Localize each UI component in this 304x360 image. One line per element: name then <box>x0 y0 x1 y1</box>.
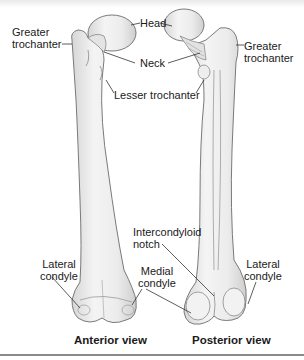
label-line: condyle <box>40 270 78 282</box>
label-intercondyloid-notch: Intercondyloid notch <box>133 226 202 250</box>
label-text: Head <box>140 17 166 29</box>
bottom-divider <box>0 354 304 356</box>
label-line: Greater <box>244 40 294 52</box>
label-line: trochanter <box>12 38 62 50</box>
label-line: Intercondyloid <box>133 226 202 238</box>
label-line: Lateral <box>40 258 78 270</box>
label-head: Head <box>140 17 166 29</box>
label-text: Lesser trochanter <box>114 89 200 101</box>
label-line: Lateral <box>244 258 282 270</box>
label-line: condyle <box>244 270 282 282</box>
label-line: notch <box>133 238 202 250</box>
femur-anterior <box>72 15 137 323</box>
label-line: Greater <box>12 26 62 38</box>
label-text: Neck <box>140 57 165 69</box>
label-line: condyle <box>138 277 176 289</box>
label-lateral-condyle-posterior: Lateral condyle <box>244 258 282 282</box>
label-neck: Neck <box>140 57 165 69</box>
label-line: Medial <box>138 265 176 277</box>
caption-posterior-view: Posterior view <box>192 334 271 346</box>
label-medial-condyle: Medial condyle <box>138 265 176 289</box>
femur-posterior <box>164 9 246 324</box>
label-greater-trochanter-anterior: Greater trochanter <box>12 26 62 50</box>
label-lateral-condyle-anterior: Lateral condyle <box>40 258 78 282</box>
label-greater-trochanter-posterior: Greater trochanter <box>244 40 294 64</box>
label-lesser-trochanter: Lesser trochanter <box>114 89 200 101</box>
caption-anterior-view: Anterior view <box>74 334 147 346</box>
label-line: trochanter <box>244 52 294 64</box>
